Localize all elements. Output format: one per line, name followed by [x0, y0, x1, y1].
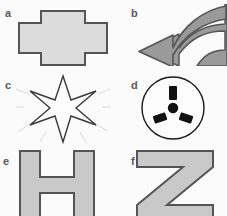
panel-label-e: e — [3, 156, 9, 167]
six-pointed-star-icon — [16, 74, 110, 144]
panel-e: e — [0, 144, 113, 216]
panel-b: b — [113, 0, 227, 72]
panel-label-d: d — [131, 80, 138, 91]
curved-left-arrow-icon — [111, 4, 227, 66]
socket-slot-top — [169, 86, 177, 100]
panel-d: d — [113, 72, 227, 144]
block-letter-z-icon — [133, 149, 217, 216]
socket-circle-icon — [140, 75, 206, 141]
panel-label-a: a — [5, 8, 11, 19]
panel-c: c — [0, 72, 113, 144]
block-letter-h-icon — [18, 149, 98, 216]
cross-plus-polygon-icon — [17, 10, 109, 66]
panel-f: f — [113, 144, 227, 216]
panel-label-c: c — [5, 80, 11, 91]
socket-center-dot — [168, 103, 178, 113]
panel-a: a — [0, 0, 113, 72]
shape-figure-grid: a b c — [0, 0, 227, 216]
